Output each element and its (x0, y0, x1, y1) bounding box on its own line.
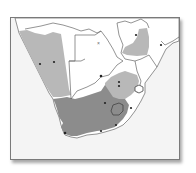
lesotho-outline (111, 103, 123, 115)
cross-marker: × (97, 40, 100, 46)
southern-africa-map: × (11, 18, 179, 159)
swaziland-outline (135, 85, 143, 93)
map-frame: × (10, 17, 180, 160)
